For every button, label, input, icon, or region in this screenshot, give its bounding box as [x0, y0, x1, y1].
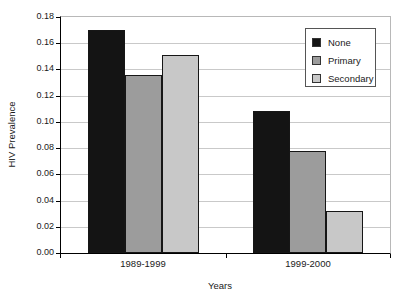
bar-none-1989-1999 [88, 30, 125, 253]
legend-item-none: None [312, 33, 375, 51]
x-tick-mark-2 [390, 254, 391, 258]
y-tick-mark-0.06 [56, 174, 60, 175]
y-tick-mark-0.02 [56, 227, 60, 228]
legend-swatch-none [312, 38, 321, 47]
y-tick-label-0.12: 0.12 [24, 90, 54, 101]
legend-label-none: None [328, 37, 351, 48]
y-tick-label-0.02: 0.02 [24, 221, 54, 232]
y-tick-label-0.06: 0.06 [24, 168, 54, 179]
y-tick-mark-0.08 [56, 148, 60, 149]
bar-secondary-1999-2000 [326, 211, 363, 253]
y-tick-label-0.16: 0.16 [24, 37, 54, 48]
legend-swatch-primary [312, 56, 321, 65]
x-category-label-1989-1999: 1989-1999 [88, 258, 198, 269]
hiv-prevalence-bar-chart: 0.000.020.040.060.080.100.120.140.160.18… [0, 0, 408, 301]
x-axis-title: Years [170, 280, 270, 291]
y-tick-mark-0.12 [56, 96, 60, 97]
y-axis-title: HIV Prevalence [6, 95, 17, 175]
x-category-label-1999-2000: 1999-2000 [253, 258, 363, 269]
y-tick-label-0.14: 0.14 [24, 63, 54, 74]
bar-none-1999-2000 [253, 111, 290, 253]
y-tick-mark-0.18 [56, 17, 60, 18]
bar-secondary-1989-1999 [162, 55, 199, 253]
y-tick-mark-0.14 [56, 69, 60, 70]
x-tick-mark-1 [226, 254, 227, 258]
y-tick-mark-0.04 [56, 201, 60, 202]
legend-swatch-secondary [312, 74, 321, 83]
bar-primary-1989-1999 [125, 75, 162, 253]
legend-label-secondary: Secondary [328, 73, 373, 84]
legend-item-primary: Primary [312, 51, 375, 69]
legend-item-secondary: Secondary [312, 69, 375, 87]
y-tick-label-0.18: 0.18 [24, 11, 54, 22]
y-tick-label-0.00: 0.00 [24, 247, 54, 258]
legend-label-primary: Primary [328, 55, 361, 66]
y-tick-mark-0.16 [56, 43, 60, 44]
y-tick-label-0.08: 0.08 [24, 142, 54, 153]
x-tick-mark-0 [60, 254, 61, 258]
y-tick-label-0.10: 0.10 [24, 116, 54, 127]
legend: None Primary Secondary [305, 28, 376, 87]
bar-primary-1999-2000 [289, 151, 326, 253]
y-tick-label-0.04: 0.04 [24, 195, 54, 206]
y-tick-mark-0.10 [56, 122, 60, 123]
